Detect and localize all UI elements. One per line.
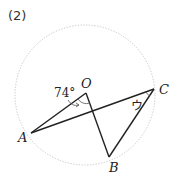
point-label-O: O — [81, 76, 92, 91]
segment-OB — [86, 93, 109, 157]
geometry-diagram: (2) 74° ウ O A C B — [0, 0, 180, 179]
angle-arc-C — [146, 92, 150, 96]
angle-label-C: ウ — [131, 99, 143, 113]
point-label-A: A — [17, 130, 27, 145]
point-label-C: C — [159, 82, 169, 97]
point-label-B: B — [108, 160, 119, 175]
problem-number: (2) — [8, 8, 26, 23]
angle-label-O: 74° — [54, 86, 75, 100]
circle — [15, 25, 155, 165]
